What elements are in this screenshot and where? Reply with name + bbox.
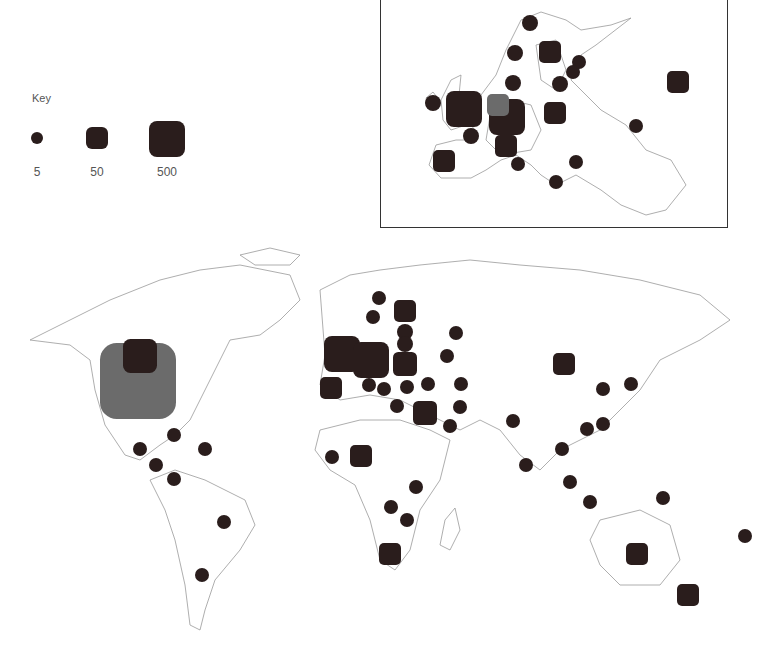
- europe-marker-small-icon[interactable]: [505, 75, 521, 91]
- world-marker-small-icon[interactable]: [421, 377, 435, 391]
- world-marker-small-icon[interactable]: [390, 399, 404, 413]
- legend-label-50: 50: [77, 165, 117, 179]
- world-marker-small-icon[interactable]: [596, 417, 610, 431]
- europe-marker-grey-icon[interactable]: [487, 94, 509, 116]
- world-marker-small-icon[interactable]: [217, 515, 231, 529]
- world-marker-small-icon[interactable]: [454, 377, 468, 391]
- world-marker-small-icon[interactable]: [377, 382, 391, 396]
- europe-marker-medium-icon[interactable]: [433, 150, 455, 172]
- world-marker-small-icon[interactable]: [583, 495, 597, 509]
- world-marker-small-icon[interactable]: [362, 378, 376, 392]
- world-marker-small-icon[interactable]: [449, 326, 463, 340]
- world-marker-large-icon[interactable]: [353, 342, 389, 378]
- world-marker-small-icon[interactable]: [366, 310, 380, 324]
- legend-label-5: 5: [17, 165, 57, 179]
- europe-marker-small-icon[interactable]: [552, 76, 568, 92]
- europe-marker-medium-icon[interactable]: [539, 41, 561, 63]
- europe-marker-medium-icon[interactable]: [544, 102, 566, 124]
- europe-marker-medium-icon[interactable]: [495, 135, 517, 157]
- world-marker-small-icon[interactable]: [596, 382, 610, 396]
- world-marker-small-icon[interactable]: [738, 529, 752, 543]
- world-marker-small-icon[interactable]: [400, 513, 414, 527]
- europe-marker-small-icon[interactable]: [511, 157, 525, 171]
- world-marker-small-icon[interactable]: [409, 480, 423, 494]
- world-marker-small-icon[interactable]: [443, 419, 457, 433]
- legend-label-500: 500: [147, 165, 187, 179]
- world-marker-small-icon[interactable]: [400, 380, 414, 394]
- world-marker-small-icon[interactable]: [453, 400, 467, 414]
- world-marker-small-icon[interactable]: [397, 336, 413, 352]
- world-marker-small-icon[interactable]: [440, 349, 454, 363]
- world-marker-small-icon[interactable]: [624, 377, 638, 391]
- world-marker-small-icon[interactable]: [167, 428, 181, 442]
- world-marker-small-icon[interactable]: [656, 491, 670, 505]
- europe-marker-small-icon[interactable]: [507, 45, 523, 61]
- legend-marker-small-icon: [31, 132, 43, 144]
- world-marker-large-icon[interactable]: [123, 339, 157, 373]
- world-marker-small-icon[interactable]: [167, 472, 181, 486]
- world-marker-small-icon[interactable]: [198, 442, 212, 456]
- world-marker-small-icon[interactable]: [384, 500, 398, 514]
- world-marker-medium-icon[interactable]: [413, 401, 437, 425]
- world-marker-medium-icon[interactable]: [394, 300, 416, 322]
- legend-marker-medium-icon: [86, 127, 108, 149]
- europe-marker-small-icon[interactable]: [629, 119, 643, 133]
- europe-marker-small-icon[interactable]: [566, 65, 580, 79]
- world-marker-small-icon[interactable]: [506, 414, 520, 428]
- world-marker-small-icon[interactable]: [519, 458, 533, 472]
- world-marker-medium-icon[interactable]: [320, 377, 342, 399]
- world-marker-small-icon[interactable]: [563, 475, 577, 489]
- legend-title: Key: [32, 92, 51, 104]
- europe-marker-large-icon[interactable]: [446, 91, 482, 127]
- map-legend: Key 5 50 500: [0, 0, 220, 200]
- europe-inset-map[interactable]: [380, 0, 728, 228]
- world-marker-small-icon[interactable]: [580, 422, 594, 436]
- world-marker-medium-icon[interactable]: [626, 543, 648, 565]
- europe-marker-small-icon[interactable]: [569, 155, 583, 169]
- world-marker-medium-icon[interactable]: [350, 445, 372, 467]
- europe-marker-small-icon[interactable]: [549, 175, 563, 189]
- world-marker-small-icon[interactable]: [372, 291, 386, 305]
- world-marker-small-icon[interactable]: [555, 442, 569, 456]
- europe-marker-small-icon[interactable]: [463, 128, 479, 144]
- world-marker-small-icon[interactable]: [133, 442, 147, 456]
- legend-marker-large-icon: [149, 121, 185, 157]
- world-marker-medium-icon[interactable]: [379, 543, 401, 565]
- world-marker-small-icon[interactable]: [325, 450, 339, 464]
- europe-marker-medium-icon[interactable]: [667, 71, 689, 93]
- europe-marker-small-icon[interactable]: [425, 95, 441, 111]
- world-marker-medium-icon[interactable]: [553, 353, 575, 375]
- world-marker-small-icon[interactable]: [149, 458, 163, 472]
- world-marker-medium-icon[interactable]: [393, 352, 417, 376]
- world-marker-medium-icon[interactable]: [677, 584, 699, 606]
- world-marker-small-icon[interactable]: [195, 568, 209, 582]
- world-map[interactable]: [0, 240, 768, 640]
- europe-marker-small-icon[interactable]: [522, 15, 538, 31]
